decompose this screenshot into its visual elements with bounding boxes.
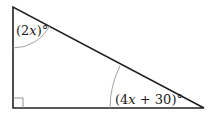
right-angle-marker [13, 98, 23, 108]
triangle-diagram: (2x)° (4x + 30)° [0, 0, 212, 115]
top-angle-label: (2x)° [16, 23, 48, 38]
bottom-right-angle-label: (4x + 30)° [115, 92, 183, 107]
